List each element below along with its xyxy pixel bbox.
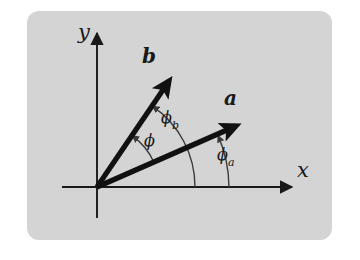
angle-label-phi: ϕ (144, 133, 155, 149)
angle-label-phi-b: ϕb (161, 110, 179, 129)
x-axis-label: x (297, 160, 309, 181)
angle-label-phi-a-glyph: ϕ (217, 145, 228, 164)
diagram-panel (27, 11, 332, 240)
vector-b-label: b (142, 46, 156, 66)
angle-label-phi-b-glyph: ϕ (161, 108, 172, 127)
vector-angle-diagram: y x b a ϕ ϕb ϕa (0, 0, 360, 260)
vector-a-label: a (224, 88, 237, 108)
angle-label-phi-a: ϕa (217, 147, 234, 166)
angle-label-phi-a-subscript: a (228, 156, 235, 169)
diagram-canvas (0, 0, 360, 260)
y-axis-label: y (78, 22, 90, 43)
angle-label-phi-b-subscript: b (172, 119, 179, 132)
angle-label-phi-glyph: ϕ (144, 131, 155, 150)
